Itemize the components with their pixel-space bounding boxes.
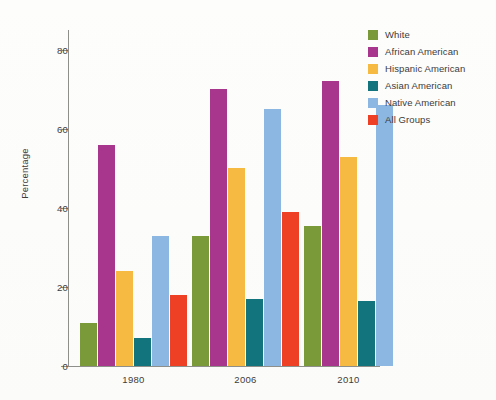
plot-area: 020406080 Percentage 198020062010 WhiteA… [0,0,496,400]
legend-label: African American [385,46,458,57]
x-tick-label-1980: 1980 [114,374,154,385]
legend-swatch-icon [368,98,378,108]
y-tick-label: 20 [42,281,68,292]
bar-1980-hispanic-american [116,271,133,366]
bar-2010-african-american [322,81,339,366]
legend-swatch-icon [368,115,378,125]
chart-root: 020406080 Percentage 198020062010 WhiteA… [0,0,496,400]
legend-item-african-american[interactable]: African American [368,43,494,60]
bar-2010-native-american [376,105,393,366]
bar-1980-native-american [152,236,169,366]
legend-label: Asian American [385,80,452,91]
y-tick-label: 40 [42,202,68,213]
bar-2010-white [304,226,321,366]
x-axis-line [68,366,380,367]
legend-item-asian-american[interactable]: Asian American [368,77,494,94]
bar-2006-native-american [264,109,281,366]
legend-swatch-icon [368,47,378,57]
y-axis-title: Percentage [19,134,30,214]
x-tick-label-2006: 2006 [226,374,266,385]
legend-item-hispanic-american[interactable]: Hispanic American [368,60,494,77]
bar-2010-asian-american [358,301,375,366]
bar-2006-african-american [210,89,227,366]
bar-2006-white [192,236,209,366]
bar-2006-asian-american [246,299,263,366]
legend-label: Hispanic American [385,63,465,74]
y-tick-label: 80 [42,44,68,55]
legend-swatch-icon [368,64,378,74]
bar-2006-hispanic-american [228,168,245,366]
bar-1980-asian-american [134,338,151,366]
legend-label: Native American [385,97,456,108]
chart-legend: WhiteAfrican AmericanHispanic AmericanAs… [368,26,494,128]
legend-item-all-groups[interactable]: All Groups [368,111,494,128]
bar-1980-all-groups [170,295,187,366]
y-tick-label: 0 [42,361,68,372]
legend-swatch-icon [368,81,378,91]
x-tick-label-2010: 2010 [329,374,369,385]
bar-2006-all-groups [282,212,299,366]
bar-1980-african-american [98,145,115,366]
legend-item-white[interactable]: White [368,26,494,43]
legend-label: White [385,29,410,40]
legend-item-native-american[interactable]: Native American [368,94,494,111]
legend-swatch-icon [368,30,378,40]
bars-layer [68,30,380,366]
y-tick-label: 60 [42,123,68,134]
bar-1980-white [80,323,97,366]
legend-label: All Groups [385,114,430,125]
bar-2010-hispanic-american [340,157,357,367]
